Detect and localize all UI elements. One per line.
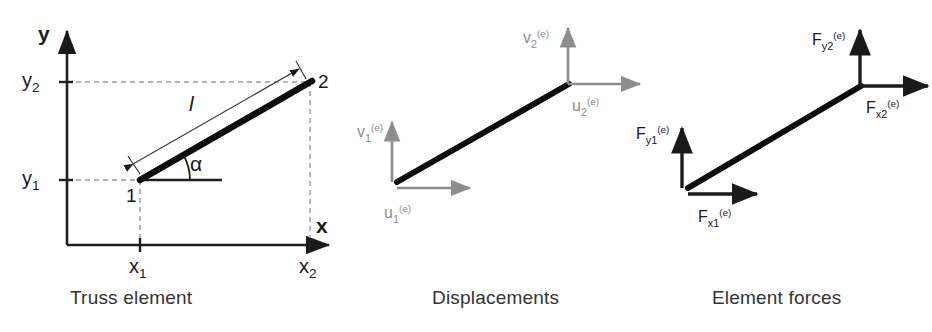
vector-u2-base: u (572, 97, 581, 114)
coord-x2-sub: 2 (309, 266, 317, 281)
coord-y1-base: y (22, 167, 32, 189)
vector-v1-sub: 1 (365, 132, 371, 144)
vector-label-fx1: Fx1(e) (698, 207, 731, 229)
vector-label-fy1: Fy1(e) (636, 124, 669, 146)
vector-fx1-sub: x1 (708, 217, 720, 229)
vector-label-fx2: Fx2(e) (866, 98, 899, 120)
coord-label-y2: y2 (22, 69, 40, 95)
coord-x1-sub: 1 (139, 266, 147, 281)
vector-v2-base: v (523, 29, 531, 46)
vector-fx1-sup: (e) (719, 207, 731, 218)
vector-fx2-sup: (e) (887, 98, 899, 109)
vector-u1-sub: 1 (393, 213, 399, 225)
vector-fx2-base: F (866, 99, 876, 116)
vector-u2-sup: (e) (587, 96, 599, 107)
coord-x1-base: x (129, 255, 139, 277)
coord-x2-base: x (299, 255, 309, 277)
vector-fy1-base: F (636, 125, 646, 142)
vector-fy2-sub: y2 (822, 40, 834, 52)
coord-label-x1: x1 (129, 255, 147, 281)
coord-y1-sub: 1 (32, 178, 40, 193)
caption-element-forces: Element forces (712, 287, 842, 309)
vector-fx2-sub: x2 (876, 108, 888, 120)
vector-label-u2: u2(e) (572, 96, 599, 118)
coord-label-y1: y1 (22, 167, 40, 193)
vector-v1-base: v (357, 123, 365, 140)
vector-fy1-sup: (e) (657, 124, 669, 135)
angle-label-alpha: α (190, 152, 202, 176)
vector-label-u1: u1(e) (384, 203, 411, 225)
vector-v1-sup: (e) (371, 122, 383, 133)
vector-u1-sup: (e) (399, 203, 411, 214)
coord-y2-base: y (22, 69, 32, 91)
coord-y2-sub: 2 (32, 80, 40, 95)
caption-truss-element: Truss element (70, 287, 192, 309)
y-axis-label: y (38, 22, 50, 46)
caption-displacements: Displacements (432, 287, 559, 309)
vector-fy1-sub: y1 (646, 134, 658, 146)
truss-element-figure (0, 0, 932, 332)
vector-u2-sub: 2 (581, 106, 587, 118)
vector-label-fy2: Fy2(e) (812, 30, 845, 52)
figure-background (0, 0, 932, 332)
coord-label-x2: x2 (299, 255, 317, 281)
vector-u1-base: u (384, 204, 393, 221)
vector-fy2-base: F (812, 31, 822, 48)
length-label: l (189, 92, 194, 116)
vector-label-v1: v1(e) (357, 122, 383, 144)
node-label-1: 1 (126, 185, 137, 207)
x-axis-label: x (316, 214, 328, 238)
vector-label-v2: v2(e) (523, 28, 549, 50)
vector-fx1-base: F (698, 208, 708, 225)
node-label-2: 2 (318, 71, 329, 93)
vector-fy2-sup: (e) (833, 30, 845, 41)
vector-v2-sub: 2 (531, 38, 537, 50)
vector-v2-sup: (e) (537, 28, 549, 39)
